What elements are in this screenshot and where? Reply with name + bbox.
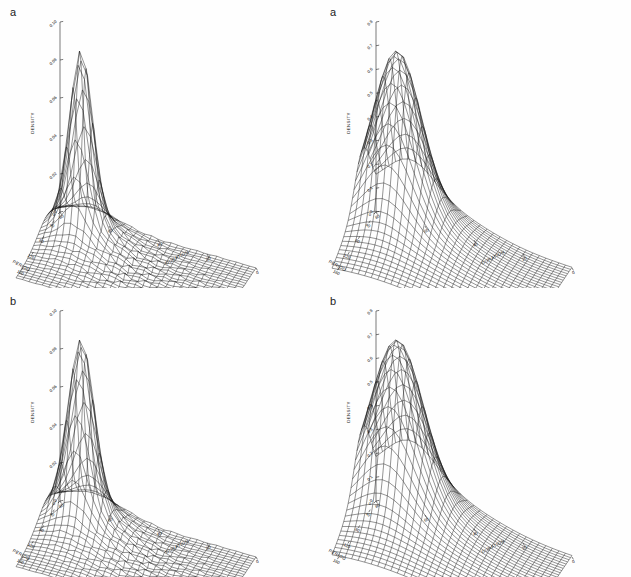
surface-plot-bottom-right: 0.80.70.60.50.40.30.20.10DENSITY80604020… bbox=[316, 289, 631, 577]
svg-text:0.7: 0.7 bbox=[366, 331, 374, 339]
figure-container: a 0.100.080.060.040.020DENSITY806040200D… bbox=[0, 0, 631, 577]
panel-top-right: a 0.80.70.60.50.40.30.20.10DENSITY806040… bbox=[316, 0, 631, 288]
svg-text:0: 0 bbox=[255, 270, 260, 276]
svg-text:0.04: 0.04 bbox=[48, 422, 58, 432]
svg-text:0.6: 0.6 bbox=[366, 66, 374, 74]
svg-text:0.8: 0.8 bbox=[366, 19, 374, 27]
panel-bottom-left: b 0.100.080.060.040.020DENSITY806040200D… bbox=[0, 289, 315, 577]
svg-text:0.02: 0.02 bbox=[48, 460, 58, 470]
surface-plot-bottom-left: 0.100.080.060.040.020DENSITY806040200DUR… bbox=[0, 289, 315, 577]
svg-text:0.7: 0.7 bbox=[366, 42, 374, 50]
svg-text:160: 160 bbox=[332, 558, 341, 566]
svg-text:80: 80 bbox=[374, 502, 381, 509]
svg-text:0: 0 bbox=[571, 270, 576, 276]
svg-text:DENSITY: DENSITY bbox=[346, 401, 351, 422]
svg-text:0.6: 0.6 bbox=[366, 355, 374, 363]
svg-text:DENSITY: DENSITY bbox=[346, 112, 351, 133]
svg-text:DENSITY: DENSITY bbox=[30, 401, 35, 422]
svg-text:0.08: 0.08 bbox=[48, 57, 58, 67]
svg-text:0.08: 0.08 bbox=[48, 346, 58, 356]
svg-text:0.02: 0.02 bbox=[48, 171, 58, 181]
svg-text:0.06: 0.06 bbox=[48, 384, 58, 394]
svg-text:0: 0 bbox=[571, 559, 576, 565]
surface-plot-top-right: 0.80.70.60.50.40.30.20.10DENSITY80604020… bbox=[316, 0, 631, 288]
svg-text:0.2: 0.2 bbox=[366, 450, 374, 458]
svg-text:0.3: 0.3 bbox=[366, 426, 374, 434]
svg-text:DENSITY: DENSITY bbox=[30, 112, 35, 133]
svg-text:0.10: 0.10 bbox=[48, 308, 58, 318]
svg-text:0.8: 0.8 bbox=[366, 308, 374, 316]
svg-text:0: 0 bbox=[255, 559, 260, 565]
surface-plot-top-left: 0.100.080.060.040.020DENSITY806040200DUR… bbox=[0, 0, 315, 288]
panel-bottom-right: b 0.80.70.60.50.40.30.20.10DENSITY806040… bbox=[316, 289, 631, 577]
svg-text:0.06: 0.06 bbox=[48, 95, 58, 105]
svg-text:80: 80 bbox=[38, 527, 45, 534]
panel-top-left: a 0.100.080.060.040.020DENSITY806040200D… bbox=[0, 0, 315, 288]
svg-text:0.10: 0.10 bbox=[48, 19, 58, 29]
svg-text:0.04: 0.04 bbox=[48, 133, 58, 143]
svg-text:0.5: 0.5 bbox=[366, 379, 374, 387]
svg-text:0.5: 0.5 bbox=[366, 90, 374, 98]
